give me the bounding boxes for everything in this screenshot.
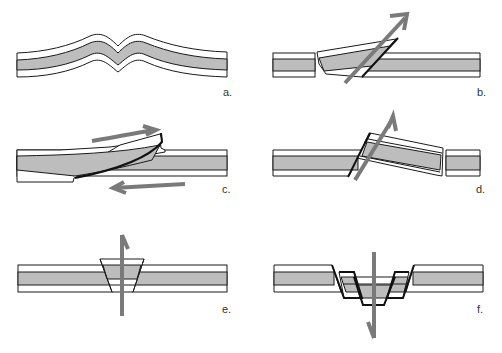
panel-c-thrust: [17, 126, 227, 193]
panel-c-label: c.: [222, 183, 231, 195]
panel-d-label: d.: [476, 183, 485, 195]
panel-f-label: f.: [477, 303, 483, 315]
fault-diagram: [0, 0, 502, 353]
panel-a-label: a.: [223, 86, 232, 98]
panel-e-label: e.: [222, 303, 231, 315]
panel-e-horst: [18, 235, 227, 316]
panel-b-label: b.: [477, 86, 486, 98]
panel-a-fold: [17, 34, 227, 77]
panel-b-fault: [273, 14, 480, 83]
panel-d-fault: [273, 116, 480, 180]
panel-f-graben: [274, 252, 483, 338]
